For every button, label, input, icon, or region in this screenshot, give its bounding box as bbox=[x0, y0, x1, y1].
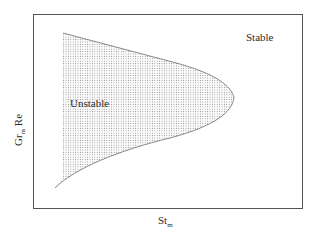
x-axis-label-subscript: m bbox=[167, 221, 173, 229]
unstable-region bbox=[55, 33, 234, 188]
x-axis-label-main: St bbox=[158, 214, 167, 226]
x-axis-label: Stm bbox=[158, 214, 173, 229]
stability-diagram: Unstable Stable Stm Grm Re bbox=[0, 0, 316, 237]
stable-label: Stable bbox=[246, 31, 274, 43]
unstable-label: Unstable bbox=[70, 97, 109, 109]
y-axis-label-main: Gr bbox=[12, 134, 24, 146]
y-axis-label-suffix: Re bbox=[12, 114, 24, 129]
y-axis-label: Grm Re bbox=[12, 114, 27, 146]
